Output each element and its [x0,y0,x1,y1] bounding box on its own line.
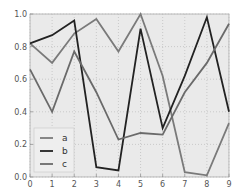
y-tick-label: 0.8 [14,43,27,52]
x-tick-label: 2 [72,180,77,189]
x-tick-label: 1 [50,180,55,189]
legend: abc [34,128,74,172]
x-tick-label: 6 [160,180,165,189]
legend-label-c: c [62,159,67,169]
y-tick-label: 1.0 [14,10,27,19]
x-tick-label: 8 [204,180,209,189]
x-tick-label: 5 [138,180,143,189]
x-tick-label: 7 [182,180,187,189]
y-tick-label: 0.0 [14,173,27,182]
x-tick-label: 9 [226,180,231,189]
y-tick-label: 0.2 [14,140,27,149]
y-tick-label: 0.6 [14,75,27,84]
legend-label-b: b [62,146,68,156]
line-chart: 0123456789 0.00.20.40.60.81.0 abc [0,0,242,196]
legend-label-a: a [62,133,68,143]
x-tick-label: 3 [94,180,99,189]
x-tick-label: 0 [27,180,32,189]
legend-box [34,128,74,172]
y-tick-label: 0.4 [14,108,27,117]
x-tick-label: 4 [116,180,121,189]
